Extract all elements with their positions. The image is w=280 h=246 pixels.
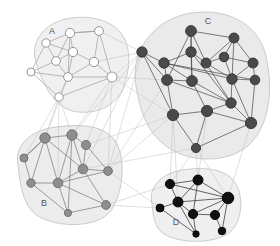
graph-canvas: ABCD [0, 0, 280, 246]
graph-node-a9[interactable] [107, 72, 117, 82]
cluster-label-b: B [41, 198, 47, 208]
graph-node-d6[interactable] [188, 209, 197, 218]
graph-node-d1[interactable] [165, 179, 174, 188]
graph-node-c8[interactable] [248, 58, 258, 68]
graph-node-c4[interactable] [186, 47, 196, 57]
graph-node-d8[interactable] [193, 231, 199, 237]
graph-node-d3[interactable] [222, 192, 234, 204]
graph-node-a7[interactable] [27, 68, 35, 76]
graph-node-b7[interactable] [27, 179, 35, 187]
graph-node-c14[interactable] [167, 109, 178, 120]
graph-node-a6[interactable] [89, 57, 98, 66]
graph-node-d5[interactable] [173, 197, 183, 207]
graph-node-c16[interactable] [245, 117, 256, 128]
graph-node-c10[interactable] [187, 76, 198, 87]
network-graph-figure: ABCD [0, 0, 280, 246]
graph-node-a2[interactable] [65, 28, 74, 37]
graph-node-a5[interactable] [68, 47, 77, 56]
graph-node-b4[interactable] [20, 154, 28, 162]
graph-node-c1[interactable] [186, 26, 197, 37]
graph-node-b9[interactable] [64, 209, 71, 216]
graph-node-c12[interactable] [250, 75, 260, 85]
graph-node-b8[interactable] [53, 178, 63, 188]
graph-node-c13[interactable] [226, 98, 236, 108]
graph-node-c9[interactable] [162, 75, 173, 86]
graph-node-b6[interactable] [104, 167, 113, 176]
graph-node-b1[interactable] [40, 133, 50, 143]
graph-node-b3[interactable] [81, 140, 90, 149]
graph-node-d9[interactable] [218, 227, 226, 235]
graph-node-c2[interactable] [229, 33, 239, 43]
graph-node-c5[interactable] [201, 58, 211, 68]
graph-node-a3[interactable] [95, 27, 104, 36]
graph-node-d7[interactable] [210, 210, 219, 219]
graph-node-b10[interactable] [102, 201, 111, 210]
graph-node-c6[interactable] [219, 52, 229, 62]
graph-node-c7[interactable] [159, 58, 169, 68]
cluster-label-c: C [205, 16, 212, 26]
graph-node-a10[interactable] [55, 93, 63, 101]
graph-node-a4[interactable] [52, 57, 61, 66]
graph-node-b2[interactable] [67, 130, 77, 140]
graph-node-b5[interactable] [78, 164, 88, 174]
graph-node-c11[interactable] [227, 74, 237, 84]
graph-node-d2[interactable] [193, 175, 203, 185]
graph-node-c15[interactable] [201, 105, 212, 116]
cluster-label-a: A [49, 26, 55, 36]
graph-node-a8[interactable] [64, 73, 73, 82]
graph-node-c17[interactable] [191, 143, 200, 152]
graph-node-d4[interactable] [156, 204, 164, 212]
graph-node-a1[interactable] [42, 39, 50, 47]
cluster-label-d: D [173, 217, 180, 227]
graph-node-c3[interactable] [137, 47, 147, 57]
